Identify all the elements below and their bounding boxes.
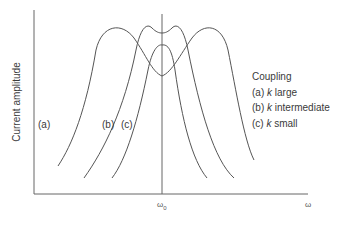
curve-c <box>112 45 207 178</box>
legend-item-b: (b) k intermediate <box>252 100 330 116</box>
legend: Coupling (a) k large (b) k intermediate … <box>252 69 330 131</box>
legend-item-c: (c) k small <box>252 116 330 132</box>
curve-b <box>84 26 234 178</box>
x-tick-omega0: ω0 <box>157 200 167 211</box>
x-axis-label: ω <box>305 200 311 209</box>
curve-label-b: (b) <box>102 119 114 130</box>
legend-title: Coupling <box>252 69 330 85</box>
curve-label-a: (a) <box>38 119 50 130</box>
legend-item-a: (a) k large <box>252 85 330 101</box>
y-axis-label: Current amplitude <box>11 62 22 141</box>
curve-label-c: (c) <box>121 119 133 130</box>
